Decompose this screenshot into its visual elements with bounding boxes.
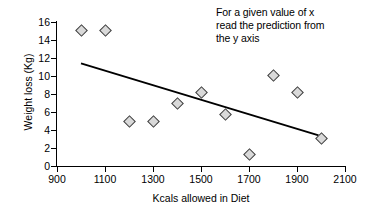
y-axis-tick — [51, 166, 56, 167]
data-point — [99, 24, 112, 37]
y-axis-tick-label: 6 — [6, 107, 50, 118]
y-axis-tick — [51, 40, 56, 41]
y-axis-tick — [51, 148, 56, 149]
y-axis-tick-label: 10 — [6, 71, 50, 82]
x-axis-tick — [249, 167, 250, 172]
x-axis-tick-label: 900 — [33, 174, 81, 185]
x-axis-tick — [345, 167, 346, 172]
x-axis-tick — [153, 167, 154, 172]
y-axis-tick-label: 8 — [6, 89, 50, 100]
y-axis-tick-label: 16 — [6, 17, 50, 28]
x-axis-tick-label: 1700 — [225, 174, 273, 185]
y-axis-tick-label: 0 — [6, 161, 50, 172]
data-point — [291, 86, 304, 99]
data-point — [75, 24, 88, 37]
x-axis-tick — [57, 167, 58, 172]
data-point — [147, 115, 160, 128]
x-axis-tick-label: 1500 — [177, 174, 225, 185]
data-point — [219, 108, 232, 121]
data-point — [195, 86, 208, 99]
y-axis-tick — [51, 58, 56, 59]
annotation-line-1: For a given value of x — [216, 6, 368, 19]
y-axis-tick-label: 12 — [6, 53, 50, 64]
y-axis-tick — [51, 94, 56, 95]
y-axis-tick — [51, 22, 56, 23]
x-axis-tick-label: 2100 — [321, 174, 369, 185]
x-axis-tick — [201, 167, 202, 172]
data-point — [123, 115, 136, 128]
x-axis-tick-label: 1300 — [129, 174, 177, 185]
y-axis-tick — [51, 76, 56, 77]
data-point — [267, 69, 280, 82]
scatter-chart: For a given value of x read the predicti… — [0, 0, 369, 216]
y-axis-tick — [51, 130, 56, 131]
x-axis-title: Kcals allowed in Diet — [57, 192, 345, 204]
x-axis-tick — [105, 167, 106, 172]
y-axis-tick-label: 2 — [6, 143, 50, 154]
x-axis-tick — [297, 167, 298, 172]
data-point — [243, 148, 256, 161]
y-axis-tick-label: 4 — [6, 125, 50, 136]
y-axis-tick — [51, 112, 56, 113]
data-point-layer — [57, 22, 345, 166]
data-point — [315, 132, 328, 145]
data-point — [171, 97, 184, 110]
y-axis-tick-label: 14 — [6, 35, 50, 46]
x-axis-tick-label: 1900 — [273, 174, 321, 185]
x-axis-tick-label: 1100 — [81, 174, 129, 185]
